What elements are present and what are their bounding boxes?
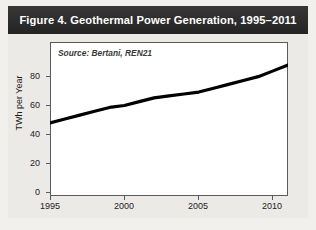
x-tick-label-2000: 2000 — [104, 201, 144, 211]
figure-card: Figure 4. Geothermal Power Generation, 1… — [8, 6, 308, 218]
plot-area: TWh per Year 80 60 40 20 0 Source: Berta… — [8, 34, 308, 218]
figure-container: Figure 4. Geothermal Power Generation, 1… — [0, 0, 316, 230]
y-tick-label-60: 60 — [14, 100, 40, 110]
source-annotation: Source: Bertani, REN21 — [58, 48, 152, 58]
x-tick-mark-2005 — [198, 196, 199, 200]
x-tick-label-2010: 2010 — [252, 201, 292, 211]
x-tick-mark-2000 — [124, 196, 125, 200]
x-tick-label-1995: 1995 — [30, 201, 70, 211]
y-tick-label-0: 0 — [14, 187, 40, 197]
data-line-geothermal — [50, 42, 288, 196]
x-tick-label-2005: 2005 — [178, 201, 218, 211]
figure-title: Figure 4. Geothermal Power Generation, 1… — [8, 6, 308, 34]
y-tick-label-20: 20 — [14, 158, 40, 168]
y-tick-label-80: 80 — [14, 71, 40, 81]
y-tick-label-40: 40 — [14, 129, 40, 139]
x-tick-mark-1995 — [50, 196, 51, 200]
x-tick-mark-2010 — [272, 196, 273, 200]
figure-title-band: Figure 4. Geothermal Power Generation, 1… — [8, 6, 308, 34]
